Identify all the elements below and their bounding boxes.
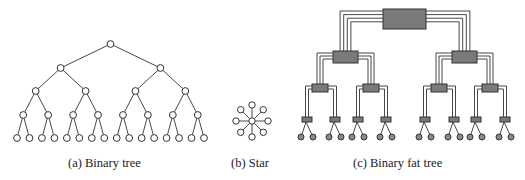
fat-tree-figure bbox=[298, 9, 514, 140]
fat-tree-wire bbox=[351, 22, 383, 51]
tree-node bbox=[32, 88, 39, 95]
fat-tree-leaf-node bbox=[496, 134, 502, 140]
fat-tree-leaf-node bbox=[377, 134, 383, 140]
fat-tree-leaf-node bbox=[457, 134, 463, 140]
fat-tree-leaf-node bbox=[298, 134, 304, 140]
fat-tree-leaf-node bbox=[445, 134, 451, 140]
tree-edge bbox=[61, 68, 86, 91]
level3-switch bbox=[330, 117, 340, 122]
star-outer-node bbox=[249, 102, 255, 108]
fat-tree-wire bbox=[439, 56, 452, 84]
leaf-node bbox=[163, 135, 170, 142]
fat-tree-wire bbox=[436, 53, 452, 84]
leaf-node bbox=[26, 135, 33, 142]
binary-tree-figure bbox=[14, 41, 208, 142]
fat-tree-leaf-node bbox=[326, 134, 332, 140]
level3-switch bbox=[420, 117, 430, 122]
tree-node bbox=[182, 88, 189, 95]
fat-tree-wire bbox=[347, 18, 383, 51]
fat-tree-leaf-node bbox=[428, 134, 434, 140]
tree-edge bbox=[73, 91, 85, 115]
tree-edge bbox=[160, 68, 185, 91]
caption-binary-tree: (a) Binary tree bbox=[68, 156, 141, 171]
tree-node bbox=[70, 112, 77, 119]
fat-tree-leaf-node bbox=[310, 134, 316, 140]
fat-tree-leaf-node bbox=[508, 134, 514, 140]
fat-tree-leaf-node bbox=[361, 134, 367, 140]
fat-tree-leaf-node bbox=[479, 134, 485, 140]
fat-tree-wire bbox=[477, 59, 487, 84]
tree-node bbox=[145, 112, 152, 119]
fat-tree-wire bbox=[447, 86, 456, 117]
level3-switch bbox=[500, 117, 510, 122]
fat-tree-wire bbox=[498, 89, 504, 117]
fat-tree-wire bbox=[427, 89, 432, 117]
tree-edge bbox=[173, 91, 185, 115]
level3-switch bbox=[471, 117, 481, 122]
network-topology-diagram bbox=[0, 0, 525, 180]
tree-node bbox=[169, 112, 176, 119]
level3-switch bbox=[302, 117, 312, 122]
leaf-node bbox=[14, 135, 21, 142]
leaf-node bbox=[39, 135, 46, 142]
leaf-node bbox=[51, 135, 58, 142]
fat-tree-wire bbox=[328, 86, 337, 117]
fat-tree-wire bbox=[442, 59, 452, 84]
level2-switch bbox=[312, 84, 328, 92]
level3-switch bbox=[381, 117, 391, 122]
level3-switch bbox=[353, 117, 363, 122]
leaf-node bbox=[151, 135, 158, 142]
fat-tree-wire bbox=[426, 22, 459, 51]
caption-star: (b) Star bbox=[231, 156, 269, 171]
leaf-node bbox=[138, 135, 145, 142]
fat-tree-leaf-node bbox=[349, 134, 355, 140]
star-outer-node bbox=[237, 106, 243, 112]
tree-node bbox=[132, 88, 139, 95]
fat-tree-wire bbox=[309, 89, 313, 117]
tree-node bbox=[82, 88, 89, 95]
leaf-node bbox=[63, 135, 70, 142]
fat-tree-wire bbox=[328, 89, 334, 117]
fat-tree-wire bbox=[360, 89, 364, 117]
tree-node bbox=[45, 112, 52, 119]
fat-tree-wire bbox=[426, 11, 470, 51]
tree-node bbox=[95, 112, 102, 119]
tree-edges bbox=[17, 44, 204, 138]
tree-edge bbox=[185, 91, 197, 115]
fat-tree-wire bbox=[358, 56, 371, 84]
tree-edge bbox=[36, 68, 61, 91]
star-outer-node bbox=[260, 106, 266, 112]
star-figure bbox=[233, 102, 271, 140]
tree-edge bbox=[86, 91, 98, 115]
leaf-node bbox=[126, 135, 133, 142]
fat-tree-wire bbox=[320, 56, 333, 84]
fat-tree-wire bbox=[498, 86, 507, 117]
level2-switch bbox=[482, 84, 498, 92]
leaf-node bbox=[201, 135, 208, 142]
fat-tree-wire bbox=[424, 86, 432, 117]
leaf-node bbox=[76, 135, 83, 142]
fat-tree-wire bbox=[358, 53, 374, 84]
level2-switch bbox=[363, 84, 379, 92]
fat-tree-wire bbox=[447, 89, 453, 117]
level1-switch bbox=[333, 51, 358, 63]
fat-tree-wire bbox=[426, 18, 463, 51]
star-center-node bbox=[249, 118, 255, 124]
tree-node bbox=[20, 112, 27, 119]
fat-tree-wire bbox=[477, 56, 490, 84]
tree-node bbox=[57, 65, 64, 72]
star-outer-node bbox=[249, 134, 255, 140]
fat-tree-leaf-node bbox=[389, 134, 395, 140]
fat-tree-wire bbox=[478, 89, 483, 117]
tree-node bbox=[157, 65, 164, 72]
level1-switch bbox=[452, 51, 477, 63]
fat-tree-leaf-node bbox=[416, 134, 422, 140]
fat-tree-wire bbox=[323, 59, 333, 84]
root-node bbox=[107, 41, 114, 48]
fat-tree-wire bbox=[340, 11, 383, 51]
root-switch bbox=[383, 9, 426, 29]
tree-edge bbox=[23, 91, 35, 115]
tree-node bbox=[194, 112, 201, 119]
fat-tree-leaf-node bbox=[467, 134, 473, 140]
level3-switch bbox=[449, 117, 459, 122]
